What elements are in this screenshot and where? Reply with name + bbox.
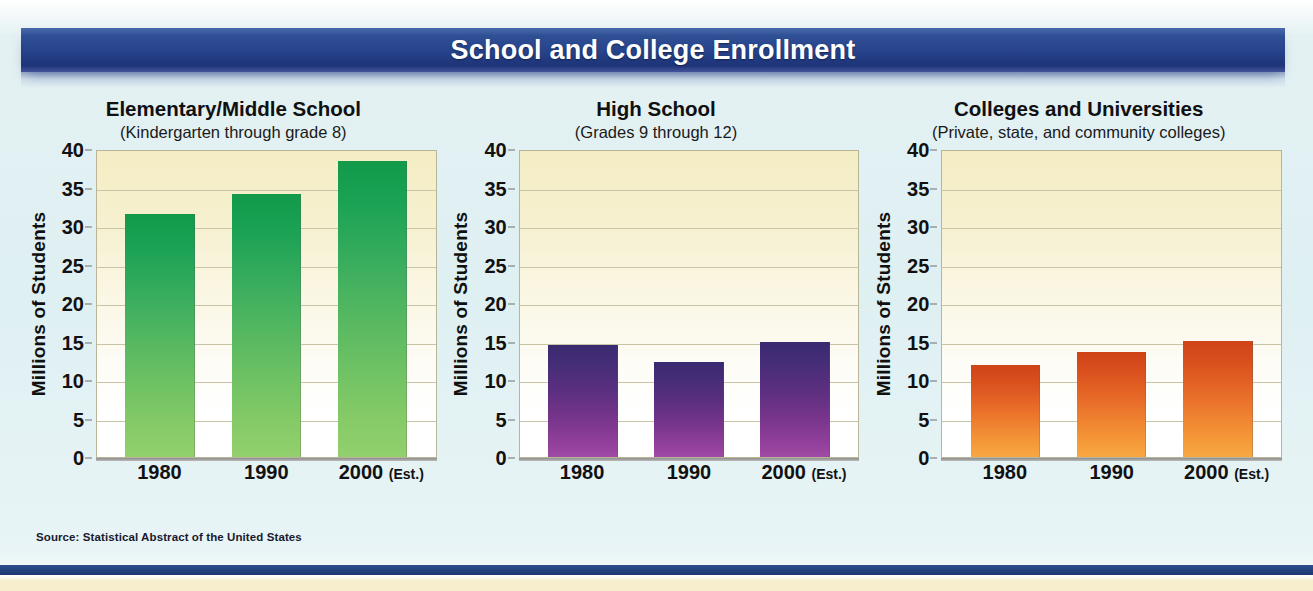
x-label-year: 2000: [339, 461, 384, 483]
charts-row: Elementary/Middle School (Kindergarten t…: [22, 96, 1290, 526]
y-tick-mark: [930, 227, 937, 228]
plot-background: [519, 150, 860, 458]
chart-plot-area: Millions of Students 4035302520151050 19…: [445, 150, 868, 492]
chart-subtitle: (Grades 9 through 12): [445, 121, 868, 143]
y-tick-mark: [85, 381, 92, 382]
y-tick-label: 40: [907, 139, 929, 162]
x-label-year: 1980: [137, 461, 182, 483]
y-tick-mark: [508, 458, 515, 459]
y-tick-label: 25: [484, 254, 506, 277]
y-tick-mark: [85, 419, 92, 420]
x-label-note: (Est.): [389, 466, 424, 482]
y-tick-label: 10: [484, 370, 506, 393]
x-label-1990: 1990: [1077, 461, 1146, 491]
x-label-year: 1990: [1089, 461, 1134, 483]
x-label-2000: 2000 (Est.): [761, 461, 830, 491]
y-tick-mark: [508, 381, 515, 382]
y-tick-mark: [508, 265, 515, 266]
chart-title: Colleges and Universities: [867, 96, 1290, 121]
chart-subtitle: (Private, state, and community colleges): [867, 121, 1290, 143]
y-tick-label: 25: [907, 254, 929, 277]
chart-title: High School: [445, 96, 868, 121]
plot-background: [96, 150, 437, 458]
bar-1990: [1077, 352, 1147, 457]
title-banner: School and College Enrollment: [21, 28, 1285, 72]
x-label-note: (Est.): [1234, 466, 1269, 482]
y-tick-mark: [508, 188, 515, 189]
y-tick-label: 5: [73, 408, 84, 431]
y-axis-ticks: 4035302520151050: [471, 150, 515, 458]
y-tick-label: 5: [918, 408, 929, 431]
y-tick-mark: [508, 419, 515, 420]
x-label-year: 2000: [761, 461, 806, 483]
y-tick-label: 0: [496, 447, 507, 470]
y-tick-label: 10: [62, 370, 84, 393]
page-title: School and College Enrollment: [21, 28, 1285, 72]
plot-background: [941, 150, 1282, 458]
x-axis-labels: 1980 1990 2000 (Est.): [96, 461, 437, 491]
y-tick-label: 20: [484, 293, 506, 316]
x-label-2000: 2000 (Est.): [339, 461, 408, 491]
chart-plot-area: Millions of Students 4035302520151050 19…: [867, 150, 1290, 492]
y-tick-label: 0: [73, 447, 84, 470]
y-axis-label-text: Millions of Students: [28, 212, 50, 397]
bar-2000: [760, 342, 830, 458]
bar-2000: [338, 161, 408, 457]
y-tick-label: 30: [907, 216, 929, 239]
y-tick-label: 30: [62, 216, 84, 239]
y-tick-label: 15: [62, 331, 84, 354]
y-tick-label: 15: [484, 331, 506, 354]
y-tick-mark: [930, 304, 937, 305]
bar-1990: [232, 194, 302, 457]
y-tick-mark: [508, 227, 515, 228]
title-banner-shadow: [21, 72, 1285, 88]
x-label-1980: 1980: [970, 461, 1039, 491]
x-label-year: 1980: [560, 461, 605, 483]
y-tick-mark: [85, 342, 92, 343]
bar-2000: [1183, 341, 1253, 457]
x-label-year: 2000: [1184, 461, 1229, 483]
x-label-1990: 1990: [655, 461, 724, 491]
x-axis-labels: 1980 1990 2000 (Est.): [941, 461, 1282, 491]
chart-panel-high-school: High School (Grades 9 through 12) Millio…: [445, 96, 868, 526]
x-label-note: (Est.): [811, 466, 846, 482]
y-tick-mark: [85, 227, 92, 228]
y-tick-mark: [508, 150, 515, 151]
x-axis-labels: 1980 1990 2000 (Est.): [519, 461, 860, 491]
y-tick-label: 30: [484, 216, 506, 239]
y-tick-label: 35: [907, 177, 929, 200]
y-tick-mark: [930, 265, 937, 266]
x-label-2000: 2000 (Est.): [1184, 461, 1253, 491]
bar-group: [942, 151, 1281, 457]
y-tick-mark: [508, 342, 515, 343]
y-tick-label: 40: [62, 139, 84, 162]
y-tick-label: 35: [62, 177, 84, 200]
bar-1980: [548, 345, 618, 457]
y-tick-label: 10: [907, 370, 929, 393]
bottom-cream-strip-inner: [0, 580, 1313, 591]
y-tick-mark: [85, 304, 92, 305]
chart-panel-elementary-middle-school: Elementary/Middle School (Kindergarten t…: [22, 96, 445, 526]
x-label-year: 1990: [667, 461, 712, 483]
chart-plot-area: Millions of Students 4035302520151050 19…: [22, 150, 445, 492]
y-tick-mark: [930, 188, 937, 189]
x-label-year: 1990: [244, 461, 289, 483]
y-tick-mark: [930, 458, 937, 459]
y-tick-mark: [930, 419, 937, 420]
y-tick-label: 5: [496, 408, 507, 431]
y-tick-label: 0: [918, 447, 929, 470]
infographic-page: School and College Enrollment Elementary…: [0, 0, 1313, 591]
chart-title: Elementary/Middle School: [22, 96, 445, 121]
bar-1980: [125, 214, 195, 457]
y-tick-label: 20: [62, 293, 84, 316]
y-axis-ticks: 4035302520151050: [48, 150, 92, 458]
chart-panel-colleges-universities: Colleges and Universities (Private, stat…: [867, 96, 1290, 526]
chart-header: Colleges and Universities (Private, stat…: [867, 96, 1290, 143]
y-tick-mark: [930, 381, 937, 382]
bar-group: [520, 151, 859, 457]
y-tick-mark: [85, 265, 92, 266]
y-tick-label: 15: [907, 331, 929, 354]
y-axis-label-text: Millions of Students: [451, 212, 473, 397]
y-tick-mark: [85, 458, 92, 459]
chart-subtitle: (Kindergarten through grade 8): [22, 121, 445, 143]
